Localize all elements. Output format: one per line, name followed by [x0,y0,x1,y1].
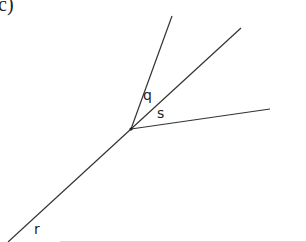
angle-label-s: s [157,106,164,120]
vertex-point [129,127,132,130]
ray-right [131,109,270,129]
ray-top-diagonal [131,28,241,129]
rays-drawing [0,0,306,242]
ray-lower-left [8,129,131,242]
angle-label-r: r [34,222,40,236]
ray-top-steep [131,16,172,129]
angle-label-q: q [143,88,152,102]
